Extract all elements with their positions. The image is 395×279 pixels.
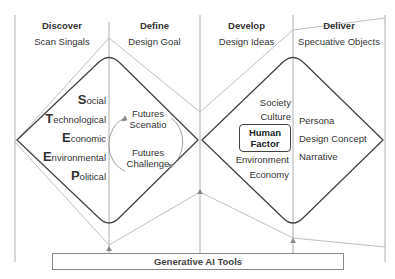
develop-culture: Culture [260,111,291,122]
deliver-narrative: Narrative [299,151,338,162]
deliver-design-concept: Design Concept [299,133,367,144]
phase-subtitle-deliver: Specuative Objects [293,36,385,47]
phase-subtitle-develop: Design Ideas [200,36,293,47]
futures-scenario-label: FuturesScenatio [120,108,176,130]
steep-technological: Technological [45,113,106,125]
phase-subtitle-discover: Scan Singals [15,36,109,47]
up-arrow-icons [106,189,296,251]
phase-title-define: Define [109,20,200,31]
phase-title-develop: Develop [200,20,293,31]
generative-ai-tools-box: Generative AI Tools [52,253,344,270]
steep-political: Political [71,170,106,182]
develop-environment: Environment [236,154,289,165]
deliver-persona: Persona [299,115,334,126]
develop-economy: Economy [249,169,289,180]
develop-society: Society [260,97,291,108]
steep-environmental: Environmental [43,151,106,163]
steep-economic: Economic [62,132,106,144]
phase-title-discover: Discover [15,20,109,31]
human-factor-box: HumanFactor [239,124,291,152]
futures-challenge-label: FuturesChallenge [120,147,176,169]
phase-title-deliver: Deliver [293,20,385,31]
steep-social: Social [78,94,106,106]
phase-subtitle-define: Design Goal [109,36,200,47]
